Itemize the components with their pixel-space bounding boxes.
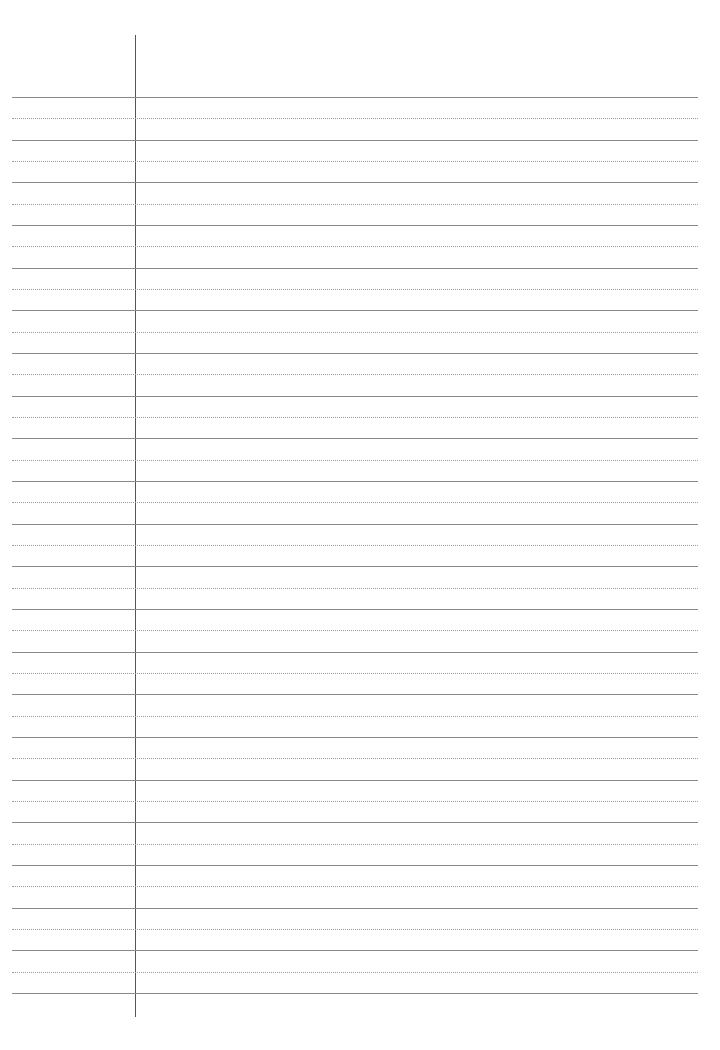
solid-rule: [12, 993, 698, 994]
dotted-rule: [12, 545, 698, 546]
solid-rule: [12, 524, 698, 525]
dotted-rule: [12, 417, 698, 418]
solid-rule: [12, 310, 698, 311]
dotted-rule: [12, 716, 698, 717]
solid-rule: [12, 780, 698, 781]
solid-rule: [12, 225, 698, 226]
dotted-rule: [12, 332, 698, 333]
dotted-rule: [12, 460, 698, 461]
dotted-rule: [12, 929, 698, 930]
solid-rule: [12, 97, 698, 98]
dotted-rule: [12, 246, 698, 247]
solid-rule: [12, 140, 698, 141]
solid-rule: [12, 652, 698, 653]
solid-rule: [12, 694, 698, 695]
dotted-rule: [12, 161, 698, 162]
dotted-rule: [12, 588, 698, 589]
dotted-rule: [12, 972, 698, 973]
solid-rule: [12, 353, 698, 354]
solid-rule: [12, 268, 698, 269]
solid-rule: [12, 182, 698, 183]
dotted-rule: [12, 758, 698, 759]
dotted-rule: [12, 118, 698, 119]
dotted-rule: [12, 204, 698, 205]
dotted-rule: [12, 374, 698, 375]
dotted-rule: [12, 630, 698, 631]
solid-rule: [12, 865, 698, 866]
dotted-rule: [12, 844, 698, 845]
solid-rule: [12, 438, 698, 439]
solid-rule: [12, 822, 698, 823]
solid-rule: [12, 737, 698, 738]
dotted-rule: [12, 801, 698, 802]
solid-rule: [12, 950, 698, 951]
solid-rule: [12, 566, 698, 567]
solid-rule: [12, 396, 698, 397]
solid-rule: [12, 481, 698, 482]
dotted-rule: [12, 886, 698, 887]
dotted-rule: [12, 289, 698, 290]
dotted-rule: [12, 673, 698, 674]
solid-rule: [12, 609, 698, 610]
dotted-rule: [12, 502, 698, 503]
solid-rule: [12, 908, 698, 909]
